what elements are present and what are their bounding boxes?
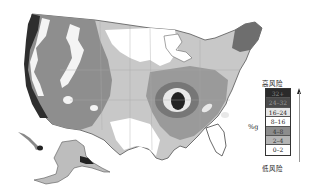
legend-high-risk-label: 高风险 xyxy=(262,78,283,88)
hotspot-center xyxy=(171,92,185,110)
legend-class-0: 32+ xyxy=(266,89,290,98)
hawaii-big-island xyxy=(37,146,43,151)
legend-class-3: 8–16 xyxy=(266,117,290,126)
legend-class-4: 4–8 xyxy=(266,127,290,136)
risk-scale-arrow xyxy=(299,92,300,162)
legend-class-1: 24–32 xyxy=(266,98,290,107)
legend-class-2: 16–24 xyxy=(266,108,290,117)
legend-unit-label: %g xyxy=(248,123,258,131)
legend: 32+ 24–32 16–24 8–16 4–8 2–4 0–2 xyxy=(265,88,291,156)
southwest-spot-2 xyxy=(90,105,98,111)
hawaii xyxy=(18,132,40,150)
new-england-zone xyxy=(232,22,262,52)
alaska xyxy=(34,140,110,184)
legend-class-5: 2–4 xyxy=(266,136,290,145)
carolina-spot xyxy=(221,112,229,118)
florida xyxy=(206,124,226,156)
legend-class-6: 0–2 xyxy=(266,145,290,154)
legend-low-risk-label: 低风险 xyxy=(262,163,283,173)
